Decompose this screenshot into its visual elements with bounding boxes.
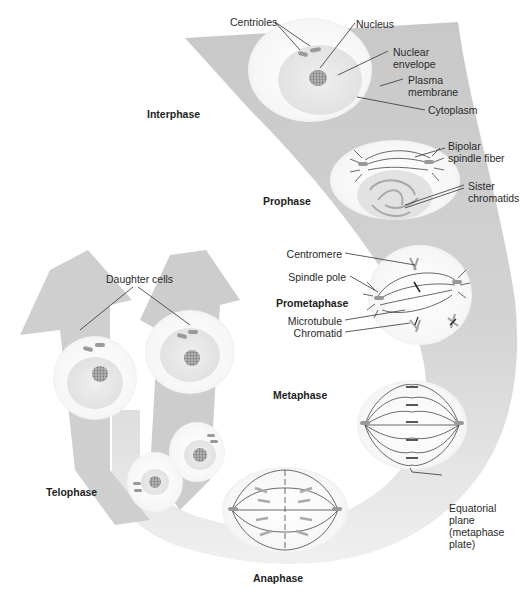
label-centromere: Centromere [270,248,342,260]
label-sister-chromatids: Sister chromatids [468,180,519,204]
label-microtubule: Microtubule [270,315,342,327]
label-nucleus: Nucleus [356,18,394,30]
label-centrioles: Centrioles [230,16,277,28]
metaphase-cell [357,380,467,470]
label-cytoplasm: Cytoplasm [428,104,478,116]
label-spindle-pole: Spindle pole [270,271,346,283]
label-equatorial-plane: Equatorial plane (metaphase plate) [449,502,504,550]
label-nuclear-envelope: Nuclear envelope [393,46,436,70]
phase-label-anaphase: Anaphase [253,572,303,584]
phase-label-telophase: Telophase [46,486,97,498]
mitosis-diagram: Interphase Prophase Prometaphase Metapha… [0,0,528,592]
telophase-cells [127,422,225,512]
phase-label-interphase: Interphase [147,108,200,120]
label-daughter-cells: Daughter cells [106,273,173,285]
phase-label-metaphase: Metaphase [273,389,327,401]
phase-label-prophase: Prophase [263,195,311,207]
label-plasma-membrane: Plasma membrane [408,74,458,98]
label-bipolar-spindle-fiber: Bipolar spindle fiber [448,140,505,164]
phase-label-prometaphase: Prometaphase [276,297,348,309]
prophase-cell [330,140,460,220]
anaphase-cell [222,467,348,553]
label-chromatid: Chromatid [270,327,342,339]
interphase-cell [248,18,372,122]
